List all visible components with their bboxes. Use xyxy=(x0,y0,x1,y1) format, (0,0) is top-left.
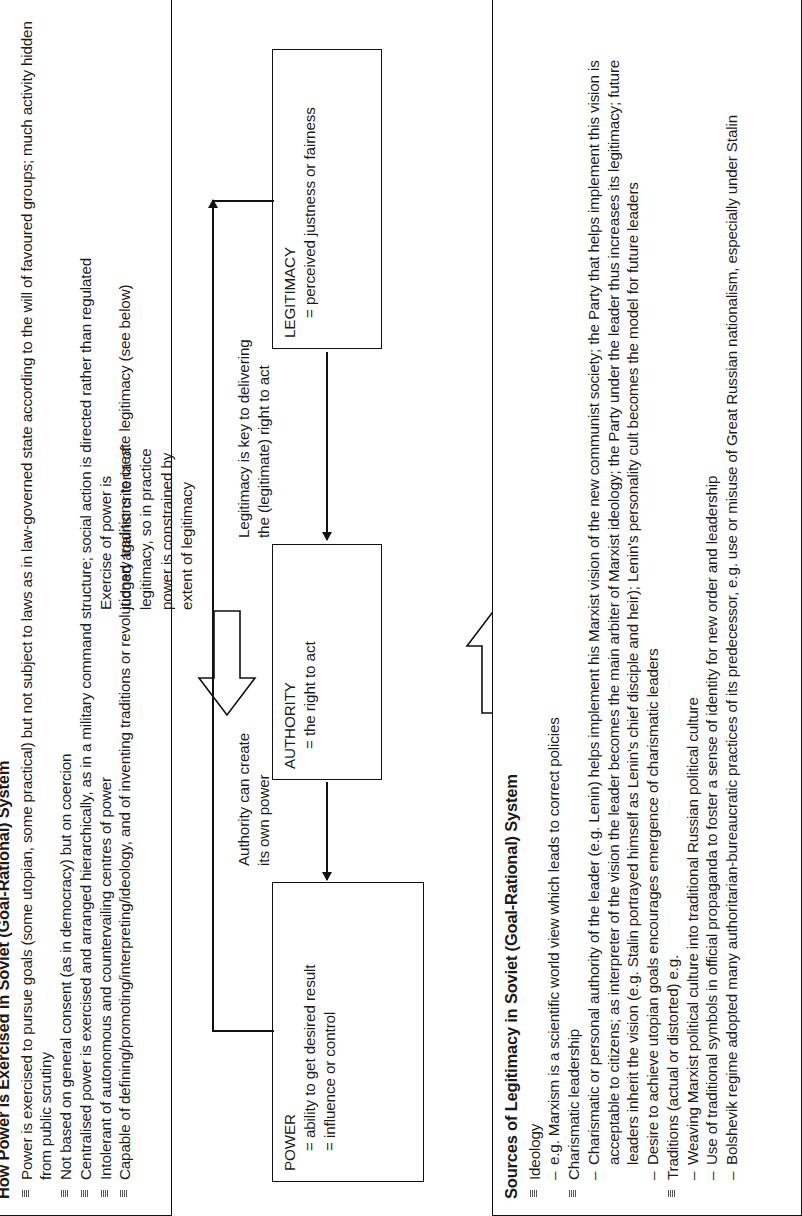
list-item: Not based on general consent (as in demo… xyxy=(56,9,76,1199)
sub-item-text: e.g. Marxism is a scientific world view … xyxy=(545,717,562,1165)
square-bullet-icon xyxy=(81,1190,88,1197)
square-bullet-icon xyxy=(22,1190,29,1197)
note-authority-line-2: its own power xyxy=(254,686,274,866)
dash-bullet-icon: – xyxy=(584,1172,604,1180)
sub-item-text: Use of traditional symbols in official p… xyxy=(703,476,720,1165)
sub-list-item: – Use of traditional symbols in official… xyxy=(702,9,722,1180)
bullet-text: Charismatic leadership xyxy=(565,1029,582,1180)
square-bullet-icon xyxy=(120,1190,127,1197)
panel-sources-bullet-list: Ideology – e.g. Marxism is a scientific … xyxy=(525,9,742,1199)
note-legitimacy-line-2: the (legitimate) right to act xyxy=(254,288,274,538)
sub-list-item: – e.g. Marxism is a scientific world vie… xyxy=(544,9,564,1180)
arrow-authority-to-power xyxy=(326,782,328,880)
legitimacy-box-title: LEGITIMACY xyxy=(280,60,300,338)
square-bullet-icon xyxy=(101,1190,108,1197)
note-exercise-line-1: Exercise of power is xyxy=(96,370,116,610)
square-bullet-icon xyxy=(61,1190,68,1197)
sub-list-item: – Desire to achieve utopian goals encour… xyxy=(643,9,663,1180)
note-exercise-of-power: Exercise of power is judged against crit… xyxy=(96,370,197,610)
panel-sources-title: Sources of Legitimacy in Soviet (Goal-Ra… xyxy=(501,9,522,1199)
note-legitimacy-delivers-right: Legitimacy is key to delivering the (leg… xyxy=(234,288,274,538)
bullet-text: Ideology xyxy=(526,1124,543,1180)
bullet-text: Traditions (actual or distorted) e.g. xyxy=(664,955,681,1180)
sub-list: – e.g. Marxism is a scientific world vie… xyxy=(544,9,564,1180)
list-item: Power is exercised to pursue goals (some… xyxy=(17,9,57,1199)
note-legitimacy-line-1: Legitimacy is key to delivering xyxy=(234,288,254,538)
power-box: POWER = ability to get desired result = … xyxy=(272,882,424,1182)
sub-list-item: – Charismatic or personal authority of t… xyxy=(584,9,643,1180)
sub-list: – Charismatic or personal authority of t… xyxy=(584,9,663,1180)
connector-power-riser xyxy=(212,1030,274,1032)
note-authority-creates-power: Authority can create its own power xyxy=(234,686,274,866)
power-box-title: POWER xyxy=(280,893,300,1171)
list-item: Ideology – e.g. Marxism is a scientific … xyxy=(525,9,565,1199)
sub-item-text: Weaving Marxist political culture into t… xyxy=(684,697,701,1165)
panel-sources-of-legitimacy: Sources of Legitimacy in Soviet (Goal-Ra… xyxy=(492,0,802,1216)
bullet-text: Centralised power is exercised and arran… xyxy=(77,258,94,1180)
square-bullet-icon xyxy=(668,1190,675,1197)
legitimacy-box: LEGITIMACY = perceived justness or fairn… xyxy=(272,49,382,349)
power-box-line-2: = influence or control xyxy=(320,893,340,1151)
dash-bullet-icon: – xyxy=(702,1172,722,1180)
sub-item-text: Bolshevik regime adopted many authoritar… xyxy=(723,115,740,1165)
dash-bullet-icon: – xyxy=(683,1172,703,1180)
panel-how-power-title: How Power is Exercised in Soviet (Goal-R… xyxy=(0,9,14,1199)
note-exercise-line-4: power is constrained by xyxy=(157,370,177,610)
sub-list: – Weaving Marxist political culture into… xyxy=(683,9,742,1180)
note-authority-line-1: Authority can create xyxy=(234,686,254,866)
sub-list-item: – Bolshevik regime adopted many authorit… xyxy=(722,9,742,1180)
square-bullet-icon xyxy=(569,1190,576,1197)
square-bullet-icon xyxy=(530,1190,537,1197)
sub-item-text: Desire to achieve utopian goals encourag… xyxy=(644,649,661,1165)
bullet-text: Not based on general consent (as in demo… xyxy=(57,754,74,1180)
sub-item-text: Charismatic or personal authority of the… xyxy=(585,60,642,1165)
arrow-legitimacy-to-authority xyxy=(326,352,328,540)
list-item: Centralised power is exercised and arran… xyxy=(76,9,96,1199)
note-exercise-line-3: legitimacy, so in practice xyxy=(136,370,156,610)
dash-bullet-icon: – xyxy=(722,1172,742,1180)
note-exercise-line-5: extent of legitimacy xyxy=(177,370,197,610)
dash-bullet-icon: – xyxy=(544,1172,564,1180)
bullet-text: Intolerant of autonomous and countervail… xyxy=(97,777,114,1180)
list-item: Charismatic leadership – Charismatic or … xyxy=(564,9,663,1199)
sub-list-item: – Weaving Marxist political culture into… xyxy=(683,9,703,1180)
note-exercise-line-2: judged against criteria of xyxy=(116,370,136,610)
dash-bullet-icon: – xyxy=(643,1172,663,1180)
authority-box-line-1: = the right to act xyxy=(300,555,320,749)
authority-box-title: AUTHORITY xyxy=(280,555,300,769)
power-box-line-1: = ability to get desired result xyxy=(300,893,320,1151)
authority-box: AUTHORITY = the right to act xyxy=(272,544,382,780)
legitimacy-box-line-1: = perceived justness or fairness xyxy=(300,60,320,318)
list-item: Traditions (actual or distorted) e.g. – … xyxy=(663,9,742,1199)
bullet-text: Power is exercised to pursue goals (some… xyxy=(18,21,55,1180)
connector-legitimacy-dropper xyxy=(212,200,274,202)
arrow-power-to-legitimacy xyxy=(212,200,214,1032)
